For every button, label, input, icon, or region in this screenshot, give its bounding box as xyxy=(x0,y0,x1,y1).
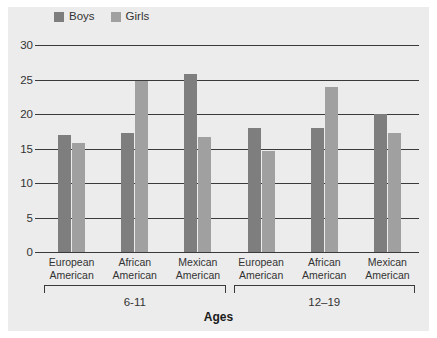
y-tick-label: 15 xyxy=(20,143,33,155)
category-label-line: African xyxy=(293,256,356,269)
gridline xyxy=(40,252,419,253)
category-label-line: American xyxy=(40,269,103,282)
bar-boys-5 xyxy=(374,114,387,252)
bar-boys-0 xyxy=(58,135,71,252)
bar-chart-figure: Boys Girls 051015202530 EuropeanAmerican… xyxy=(0,0,437,338)
category-label: EuropeanAmerican xyxy=(40,256,103,281)
bar-girls-4 xyxy=(325,87,338,252)
y-tick-label: 5 xyxy=(27,212,33,224)
y-tick-label: 20 xyxy=(20,108,33,120)
plot-area: 051015202530 xyxy=(40,45,419,252)
y-tick-label: 10 xyxy=(20,177,33,189)
y-tick-label: 30 xyxy=(20,39,33,51)
category-label: MexicanAmerican xyxy=(166,256,229,281)
category-label-line: Mexican xyxy=(166,256,229,269)
category-label-line: African xyxy=(103,256,166,269)
legend-entry-boys: Boys xyxy=(54,11,95,23)
legend-label-girls: Girls xyxy=(126,11,150,23)
bar-series-container xyxy=(40,45,419,252)
bar-girls-3 xyxy=(262,151,275,252)
legend-label-boys: Boys xyxy=(69,11,95,23)
category-label-line: Mexican xyxy=(356,256,419,269)
bar-boys-3 xyxy=(248,128,261,252)
bar-girls-0 xyxy=(72,143,85,252)
group-bracket xyxy=(234,285,416,293)
y-tick-label: 25 xyxy=(20,74,33,86)
x-axis-title: Ages xyxy=(0,310,437,324)
category-label-line: American xyxy=(356,269,419,282)
x-axis-category-labels: EuropeanAmericanAfricanAmericanMexicanAm… xyxy=(40,256,419,282)
category-label-line: American xyxy=(166,269,229,282)
bar-girls-2 xyxy=(198,137,211,252)
chart-legend: Boys Girls xyxy=(54,9,149,25)
bar-girls-1 xyxy=(135,81,148,252)
legend-swatch-boys xyxy=(54,12,64,22)
category-label-line: American xyxy=(103,269,166,282)
bar-girls-5 xyxy=(388,133,401,252)
category-label: AfricanAmerican xyxy=(293,256,356,281)
legend-entry-girls: Girls xyxy=(111,11,150,23)
category-label-line: American xyxy=(293,269,356,282)
category-label: AfricanAmerican xyxy=(103,256,166,281)
category-label-line: European xyxy=(40,256,103,269)
category-label: MexicanAmerican xyxy=(356,256,419,281)
category-label-line: European xyxy=(230,256,293,269)
group-label: 6-11 xyxy=(44,296,226,308)
bar-boys-1 xyxy=(121,133,134,252)
category-label: EuropeanAmerican xyxy=(230,256,293,281)
bar-boys-2 xyxy=(184,74,197,252)
group-bracket xyxy=(44,285,226,293)
y-tick-label: 0 xyxy=(27,246,33,258)
y-tick-mark xyxy=(35,252,40,253)
group-label: 12–19 xyxy=(234,296,416,308)
bar-boys-4 xyxy=(311,128,324,252)
category-label-line: American xyxy=(230,269,293,282)
legend-swatch-girls xyxy=(111,12,121,22)
